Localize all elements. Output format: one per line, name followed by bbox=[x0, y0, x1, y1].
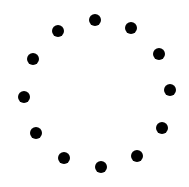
spinner-dot bbox=[58, 152, 70, 164]
spinner-dot bbox=[27, 53, 39, 65]
loading-spinner-icon bbox=[0, 0, 189, 187]
spinner-dot bbox=[156, 122, 168, 134]
spinner-dot bbox=[89, 14, 101, 26]
spinner-dot bbox=[131, 150, 143, 162]
spinner-dot bbox=[164, 84, 176, 96]
spinner-dot bbox=[18, 91, 30, 103]
spinner-dot bbox=[95, 161, 107, 173]
spinner-dot bbox=[52, 25, 64, 37]
spinner-dot bbox=[125, 22, 137, 34]
spinner-dot bbox=[30, 127, 42, 139]
spinner-dot bbox=[153, 48, 165, 60]
